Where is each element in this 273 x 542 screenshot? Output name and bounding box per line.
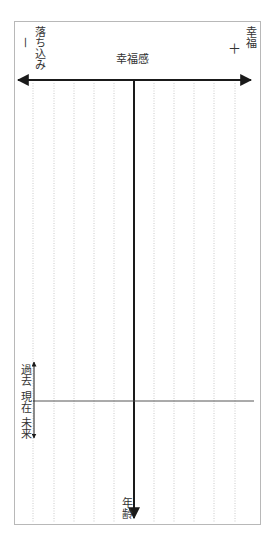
- timeline-present-label: 現在: [19, 391, 31, 413]
- timeline-future-label: 未来: [19, 417, 31, 439]
- minus-sign: －: [19, 36, 32, 49]
- right-label: 幸福: [244, 26, 256, 48]
- plus-sign: ＋: [228, 42, 241, 55]
- age-axis-label: 年齢: [120, 497, 132, 519]
- happiness-age-chart: [0, 0, 273, 542]
- chart-title: 幸福感: [116, 50, 149, 66]
- timeline-past-label: 過去: [19, 364, 31, 386]
- left-label: 落ち込み: [33, 26, 45, 70]
